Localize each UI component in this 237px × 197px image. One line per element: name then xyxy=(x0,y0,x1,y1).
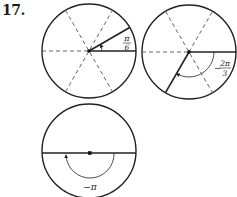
angle-label-denominator: 3 xyxy=(223,69,228,78)
unit-circle-minus-2pi-over-3: − 2π 3 xyxy=(142,5,236,99)
center-dot xyxy=(87,49,91,53)
center-dot xyxy=(88,151,92,155)
angle-label-numerator: π xyxy=(123,34,130,43)
angle-arc xyxy=(100,45,102,52)
terminal-side xyxy=(166,52,190,93)
circle-minus-pi: −π xyxy=(42,104,136,197)
angle-label-numerator: 2π xyxy=(219,59,231,68)
center-dot xyxy=(187,50,191,54)
angle-label: −π xyxy=(83,182,98,192)
figure-canvas: π 6 − 2π 3 −π xyxy=(0,0,237,197)
unit-circle-pi-over-6: π 6 xyxy=(42,4,136,98)
angle-arc xyxy=(66,153,114,178)
angle-label-denominator: 6 xyxy=(125,43,130,52)
